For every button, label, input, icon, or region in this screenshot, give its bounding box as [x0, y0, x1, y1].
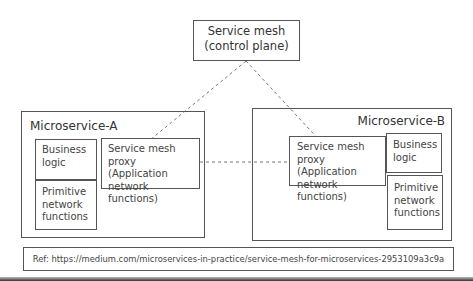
a-proxy-label: Service mesh proxy (Application network … [108, 143, 199, 206]
a-primitive-box: Primitive network functions [35, 180, 97, 230]
reference-box: Ref: https://medium.com/microservices-in… [23, 247, 454, 271]
reference-text: Ref: https://medium.com/microservices-in… [24, 253, 453, 266]
a-primitive-label: Primitive network functions [42, 186, 88, 224]
b-primitive-label: Primitive network functions [394, 182, 440, 220]
microservice-b-title: Microservice-B [358, 115, 445, 128]
bottom-edge [0, 277, 473, 281]
microservice-a-title: Microservice-A [30, 120, 118, 133]
a-proxy-box: Service mesh proxy (Application network … [101, 138, 200, 189]
b-business-logic-box: Business logic [386, 133, 442, 173]
a-business-logic-box: Business logic [35, 139, 97, 180]
control-plane-box: Service mesh (control plane) [193, 20, 300, 61]
control-plane-label: Service mesh (control plane) [194, 24, 299, 54]
b-proxy-box: Service mesh proxy (Application network … [289, 136, 386, 186]
a-business-logic-label: Business logic [42, 144, 86, 169]
b-primitive-box: Primitive network functions [387, 175, 443, 230]
b-proxy-label: Service mesh proxy (Application network … [297, 141, 385, 204]
b-business-logic-label: Business logic [393, 139, 437, 164]
